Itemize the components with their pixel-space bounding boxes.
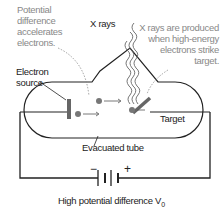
plus-sign: +	[124, 164, 131, 175]
xray-waves	[125, 23, 140, 104]
xrays-produced-label: X rays are produced when high-energy ele…	[139, 22, 219, 66]
target-plate	[133, 98, 150, 113]
minus-sign: −	[90, 164, 97, 175]
evacuated-tube-label: Evacuated tube	[82, 142, 144, 153]
battery	[98, 170, 118, 186]
high-potential-label: High potential difference V0	[58, 195, 165, 210]
electron-source-label: Electron source	[16, 66, 48, 88]
potential-diff-label: Potential difference accelerates electro…	[17, 4, 62, 48]
xrays-label: X rays	[90, 18, 115, 29]
electron-source	[67, 99, 71, 119]
target-label: Target	[160, 113, 185, 124]
